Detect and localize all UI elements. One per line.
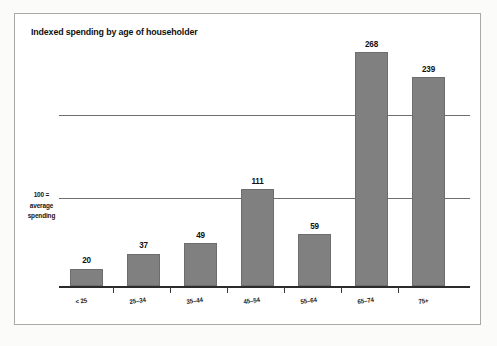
bar-25-34	[127, 254, 160, 286]
bar-value-label: 37	[129, 240, 159, 250]
annotation-line-2: average	[25, 201, 58, 212]
bar-45-54	[241, 189, 274, 286]
bar-65-74	[355, 52, 388, 286]
x-tick-label-lt-25: < 25	[75, 297, 87, 305]
average-reference-annotation: 100 = average spending	[25, 190, 58, 222]
bar-value-label: 111	[243, 176, 273, 186]
x-tick-label-45-54: 45–54	[243, 296, 260, 305]
bar-value-label: 59	[300, 221, 330, 231]
annotation-line-1: 100 =	[25, 190, 58, 201]
bar-lt-25	[70, 269, 103, 287]
x-tick-label-55-64: 55–64	[300, 296, 317, 305]
axis-tick	[170, 287, 171, 293]
x-axis-line	[59, 286, 470, 288]
bar-35-44	[184, 243, 217, 286]
bar-55-64	[298, 234, 331, 286]
annotation-line-3: spending	[25, 211, 58, 222]
axis-tick	[113, 287, 114, 293]
bar-75plus	[412, 77, 445, 286]
plot-area: 20 37 49 111 59 268 239 < 25 25–34 35–44…	[0, 0, 497, 346]
bar-value-label: 239	[414, 64, 444, 74]
axis-tick	[398, 287, 399, 293]
gridline-upper	[59, 115, 470, 116]
bar-value-label: 49	[186, 230, 216, 240]
x-tick-label-75plus: 75+	[418, 297, 429, 305]
bar-value-label: 268	[357, 39, 387, 49]
bar-value-label: 20	[72, 255, 102, 265]
x-tick-label-65-74: 65–74	[357, 296, 374, 305]
chart-screenshot: Indexed spending by age of householder 2…	[0, 0, 497, 346]
axis-tick	[341, 287, 342, 293]
axis-tick	[284, 287, 285, 293]
axis-tick	[227, 287, 228, 293]
x-tick-label-35-44: 35–44	[186, 296, 203, 305]
x-tick-label-25-34: 25–34	[129, 296, 146, 305]
